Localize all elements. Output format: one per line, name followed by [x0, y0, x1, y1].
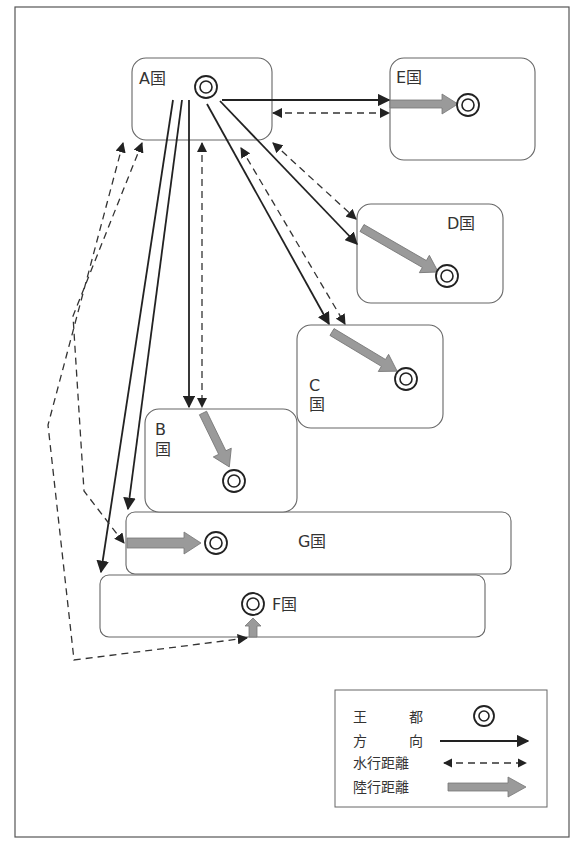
capital-a-icon	[195, 76, 217, 98]
country-d	[357, 204, 503, 303]
label-country-g: G国	[298, 532, 326, 551]
legend-water-label: 水行距離	[353, 755, 409, 771]
diagram-canvas: A国 E国 D国 C 国 B 国 G国 F国	[0, 0, 577, 847]
capital-e-icon	[457, 94, 479, 116]
label-country-c-kuni: 国	[309, 395, 325, 414]
capital-g-icon	[205, 532, 227, 554]
water-a-d	[273, 143, 356, 219]
legend-land-label: 陸行距離	[353, 779, 409, 795]
water-a-c	[241, 148, 345, 324]
legend-direction-label-2: 向	[409, 733, 423, 749]
label-country-b-kuni: 国	[155, 440, 171, 459]
label-country-e: E国	[396, 68, 422, 87]
capital-c-icon	[395, 368, 417, 390]
legend-capital-label-1: 王	[353, 709, 367, 725]
direction-a-to-c	[207, 104, 329, 324]
label-country-d: D国	[447, 214, 475, 233]
label-country-b-letter: B	[155, 420, 166, 439]
legend-double-circle-icon	[474, 706, 494, 726]
legend: 王 都 方 向 水行距離 陸行距離	[335, 690, 547, 807]
legend-direction-label-1: 方	[353, 733, 367, 749]
capital-f-icon	[242, 593, 264, 615]
label-country-c-letter: C	[309, 376, 320, 395]
label-country-f: F国	[272, 595, 297, 614]
legend-capital-label-2: 都	[409, 709, 423, 725]
capital-b-icon	[223, 470, 245, 492]
capital-d-icon	[436, 265, 458, 287]
label-country-a: A国	[139, 69, 166, 88]
direction-a-to-d	[220, 101, 357, 244]
